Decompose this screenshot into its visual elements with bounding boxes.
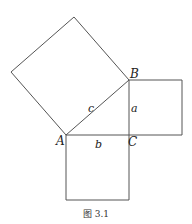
vertex-label-c: C [128, 135, 137, 149]
side-label-b: b [95, 138, 102, 151]
square-on-hypotenuse [11, 17, 129, 135]
vertex-label-a: A [55, 134, 65, 148]
side-label-c: c [88, 102, 94, 115]
pythagorean-diagram: B A C c a b 图 3.1 [0, 0, 192, 224]
vertex-label-b: B [129, 67, 139, 81]
side-label-a: a [131, 102, 138, 115]
figure-caption: 图 3.1 [83, 209, 109, 219]
